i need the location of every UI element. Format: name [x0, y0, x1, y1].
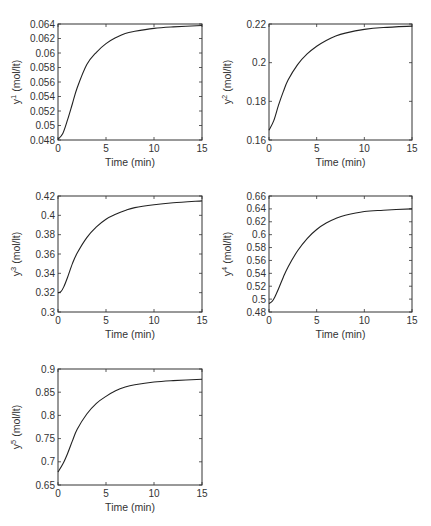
subplot-y5: 051015Time (min)0.650.70.750.80.850.9y5 … — [9, 364, 208, 514]
y-axis-label: y3 (mol/lt) — [9, 232, 22, 276]
x-tick-label: 5 — [314, 143, 320, 154]
x-axis: 051015Time (min) — [55, 196, 208, 340]
x-axis: 051015Time (min) — [55, 24, 208, 168]
y-tick-label: 0.5 — [252, 294, 266, 305]
x-axis: 051015Time (min) — [266, 24, 418, 168]
x-axis-label: Time (min) — [105, 156, 155, 168]
y-tick-label: 0.32 — [36, 287, 56, 298]
y-axis-label: y2 (mol/lt) — [220, 60, 233, 104]
y-tick-label: 0.16 — [247, 135, 267, 146]
y-tick-label: 0.2 — [252, 57, 266, 68]
y-tick-label: 0.062 — [30, 33, 55, 44]
y-tick-label: 0.66 — [247, 191, 267, 202]
y-tick-label: 0.38 — [36, 229, 56, 240]
subplot-y3: 051015Time (min)0.30.320.340.360.380.40.… — [9, 191, 208, 341]
y-tick-label: 0.8 — [41, 410, 55, 421]
axes-frame — [58, 369, 202, 485]
y-tick-label: 0.048 — [30, 135, 55, 146]
x-axis: 051015Time (min) — [266, 196, 418, 340]
x-tick-label: 0 — [55, 488, 61, 499]
x-tick-label: 15 — [196, 143, 208, 154]
x-tick-label: 15 — [196, 315, 208, 326]
y-tick-label: 0.64 — [247, 203, 267, 214]
x-tick-label: 15 — [406, 315, 418, 326]
axes-frame — [58, 196, 202, 312]
y-tick-label: 0.85 — [36, 387, 56, 398]
y-tick-label: 0.056 — [30, 77, 55, 88]
figure-canvas: 051015Time (min)0.0480.050.0520.0540.056… — [0, 0, 431, 526]
x-tick-label: 15 — [406, 143, 418, 154]
y-axis-label: y5 (mol/lt) — [9, 405, 22, 449]
series-line-y3 — [58, 201, 202, 293]
axes-frame — [269, 24, 412, 140]
x-tick-label: 10 — [148, 315, 160, 326]
x-tick-label: 10 — [359, 315, 371, 326]
axes-frame — [269, 196, 412, 312]
series-line-y5 — [58, 379, 202, 472]
x-tick-label: 10 — [359, 143, 371, 154]
y-tick-label: 0.62 — [247, 216, 267, 227]
x-tick-label: 0 — [55, 315, 61, 326]
y-tick-label: 0.058 — [30, 62, 55, 73]
x-tick-label: 10 — [148, 143, 160, 154]
y-tick-label: 0.4 — [41, 210, 55, 221]
y-tick-label: 0.54 — [247, 268, 267, 279]
subplot-y2: 051015Time (min)0.160.180.20.22y2 (mol/l… — [220, 19, 418, 169]
y-tick-label: 0.75 — [36, 433, 56, 444]
x-tick-label: 5 — [103, 488, 109, 499]
y-tick-label: 0.36 — [36, 249, 56, 260]
y-axis-label: y1 (mol/lt) — [9, 60, 22, 104]
subplot-y1: 051015Time (min)0.0480.050.0520.0540.056… — [9, 19, 208, 169]
y-tick-label: 0.65 — [36, 480, 56, 491]
y-tick-label: 0.52 — [247, 281, 267, 292]
y-axis: 0.160.180.20.22y2 (mol/lt) — [220, 19, 412, 146]
y-tick-label: 0.064 — [30, 19, 55, 30]
x-tick-label: 5 — [314, 315, 320, 326]
series-line-y4 — [269, 209, 412, 304]
x-tick-label: 0 — [266, 143, 272, 154]
y-axis: 0.480.50.520.540.560.580.60.620.640.66y4… — [220, 191, 412, 318]
y-tick-label: 0.9 — [41, 364, 55, 375]
x-tick-label: 10 — [148, 488, 160, 499]
y-tick-label: 0.052 — [30, 106, 55, 117]
y-tick-label: 0.06 — [36, 48, 56, 59]
x-tick-label: 15 — [196, 488, 208, 499]
y-axis-label: y4 (mol/lt) — [220, 232, 233, 276]
y-axis: 0.0480.050.0520.0540.0560.0580.060.0620.… — [9, 19, 202, 146]
y-axis: 0.30.320.340.360.380.40.42y3 (mol/lt) — [9, 191, 202, 318]
y-tick-label: 0.3 — [41, 307, 55, 318]
y-tick-label: 0.56 — [247, 255, 267, 266]
x-axis: 051015Time (min) — [55, 369, 208, 513]
x-tick-label: 0 — [55, 143, 61, 154]
x-axis-label: Time (min) — [105, 501, 155, 513]
subplot-y4: 051015Time (min)0.480.50.520.540.560.580… — [220, 191, 418, 341]
y-tick-label: 0.6 — [252, 229, 266, 240]
y-tick-label: 0.22 — [247, 19, 267, 30]
y-tick-label: 0.34 — [36, 268, 56, 279]
y-tick-label: 0.58 — [247, 242, 267, 253]
y-tick-label: 0.054 — [30, 91, 55, 102]
x-tick-label: 5 — [103, 143, 109, 154]
x-axis-label: Time (min) — [316, 328, 366, 340]
y-axis: 0.650.70.750.80.850.9y5 (mol/lt) — [9, 364, 202, 491]
x-tick-label: 0 — [266, 315, 272, 326]
y-tick-label: 0.7 — [41, 456, 55, 467]
series-line-y2 — [269, 26, 412, 130]
y-tick-label: 0.42 — [36, 191, 56, 202]
y-tick-label: 0.05 — [36, 120, 56, 131]
y-tick-label: 0.48 — [247, 307, 267, 318]
x-tick-label: 5 — [103, 315, 109, 326]
x-axis-label: Time (min) — [105, 328, 155, 340]
x-axis-label: Time (min) — [316, 156, 366, 168]
y-tick-label: 0.18 — [247, 96, 267, 107]
series-line-y1 — [58, 25, 202, 139]
